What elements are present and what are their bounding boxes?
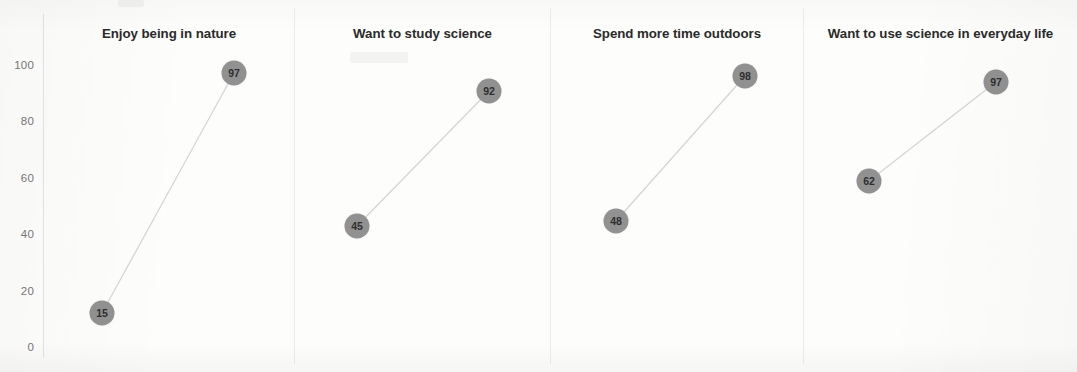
- y-tick-label-100: 100: [14, 59, 34, 71]
- y-tick-label-40: 40: [21, 228, 34, 240]
- data-point-value: 92: [483, 86, 494, 97]
- slope-chart-small-multiples: 100 80 60 40 20 0 Enjoy being in nature …: [0, 0, 1077, 372]
- data-point-marker: 98: [733, 64, 758, 89]
- panel-want-to-study-science: Want to study science 45 92: [295, 0, 550, 372]
- y-tick-label-80: 80: [21, 115, 34, 127]
- slope-line-svg: [44, 0, 294, 372]
- plot-area: 15 97: [44, 0, 294, 372]
- y-tick-label-60: 60: [21, 172, 34, 184]
- slope-line-svg: [804, 0, 1077, 372]
- data-point-marker: 92: [477, 79, 502, 104]
- data-point-value: 48: [610, 216, 621, 227]
- data-point-marker: 97: [222, 61, 247, 86]
- data-point-value: 15: [96, 308, 107, 319]
- data-point-marker: 15: [90, 301, 115, 326]
- y-tick-label-20: 20: [21, 285, 34, 297]
- panel-spend-more-time-outdoors: Spend more time outdoors 48 98: [551, 0, 803, 372]
- panel-want-to-use-science-in-everyday-life: Want to use science in everyday life 62 …: [804, 0, 1077, 372]
- y-axis: 100 80 60 40 20 0: [0, 0, 43, 372]
- data-point-value: 97: [990, 77, 1001, 88]
- slope-line-svg: [551, 0, 803, 372]
- plot-area: 48 98: [551, 0, 803, 372]
- y-tick-label-0: 0: [27, 341, 34, 353]
- data-point-value: 97: [228, 68, 239, 79]
- data-point-marker: 48: [604, 209, 629, 234]
- data-point-value: 98: [739, 71, 750, 82]
- data-point-marker: 45: [345, 214, 370, 239]
- data-point-marker: 97: [984, 70, 1009, 95]
- plot-area: 62 97: [804, 0, 1077, 372]
- data-point-marker: 62: [857, 169, 882, 194]
- plot-area: 45 92: [295, 0, 550, 372]
- slope-line-svg: [295, 0, 550, 372]
- data-point-value: 62: [863, 176, 874, 187]
- data-point-value: 45: [351, 221, 362, 232]
- panel-enjoy-being-in-nature: Enjoy being in nature 15 97: [44, 0, 294, 372]
